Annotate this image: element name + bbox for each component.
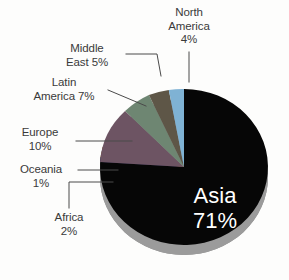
leader-line-middle-east [126, 54, 161, 76]
pie-slice-label-asia: Asia 71% [172, 183, 258, 233]
pie-callout-label-north-america: North America 4% [152, 6, 226, 47]
pie-callout-label-latin-america: Latin America 7% [22, 76, 106, 103]
pie-callout-label-middle-east: Middle East 5% [50, 42, 124, 69]
pie-callout-label-africa: Africa 2% [38, 211, 100, 238]
pie-callout-label-europe: Europe 10% [6, 126, 74, 153]
pie-chart-figure: Asia 71% North America 4% Middle East 5%… [0, 0, 289, 280]
leader-line-latin-america [108, 90, 146, 106]
pie-callout-label-oceania: Oceania 1% [6, 163, 76, 190]
